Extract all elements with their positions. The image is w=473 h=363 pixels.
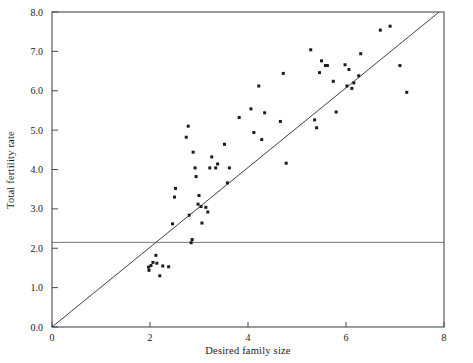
data-point: [208, 166, 211, 169]
data-point: [167, 265, 170, 268]
data-point: [379, 29, 382, 32]
data-point: [263, 111, 266, 114]
data-point: [154, 254, 157, 257]
data-point: [320, 59, 323, 62]
data-point: [309, 48, 312, 51]
reference-lines: [52, 12, 444, 327]
y-tick-label: 4.0: [31, 164, 44, 175]
data-point: [345, 85, 348, 88]
data-point: [185, 136, 188, 139]
data-point: [357, 74, 360, 77]
data-point: [200, 222, 203, 225]
y-tick-label: 0.0: [31, 322, 44, 333]
data-point: [359, 52, 362, 55]
data-point: [190, 241, 193, 244]
data-point: [198, 194, 201, 197]
data-point: [252, 131, 255, 134]
data-point: [171, 222, 174, 225]
y-axis-title: Total fertility rate: [5, 131, 16, 209]
data-point: [161, 264, 164, 267]
data-point: [249, 107, 252, 110]
data-point: [206, 211, 209, 214]
y-tick-label: 3.0: [31, 203, 44, 214]
data-point: [332, 80, 335, 83]
data-point: [223, 143, 226, 146]
data-point: [216, 162, 219, 165]
data-point: [318, 71, 321, 74]
data-point: [149, 264, 152, 267]
data-point: [257, 85, 260, 88]
data-point: [389, 25, 392, 28]
data-point: [344, 63, 347, 66]
data-point: [350, 87, 353, 90]
data-point: [335, 111, 338, 114]
data-point: [174, 187, 177, 190]
data-point: [151, 261, 154, 264]
data-point: [173, 196, 176, 199]
x-tick-label: 0: [50, 332, 55, 343]
plot-frame: [52, 12, 444, 327]
data-point: [195, 175, 198, 178]
y-tick-label: 1.0: [31, 282, 44, 293]
data-point: [326, 64, 329, 67]
data-point: [199, 205, 202, 208]
data-point: [398, 64, 401, 67]
y-tick-label: 2.0: [31, 243, 44, 254]
x-tick-label: 8: [442, 332, 447, 343]
data-point: [214, 166, 217, 169]
data-point: [285, 162, 288, 165]
x-tick-label: 4: [246, 332, 251, 343]
y-tick-label: 5.0: [31, 125, 44, 136]
data-point: [260, 138, 263, 141]
data-points-layer: [147, 25, 408, 278]
y-tick-label: 7.0: [31, 46, 44, 57]
data-point: [148, 269, 151, 272]
data-point: [405, 91, 408, 94]
data-point: [315, 126, 318, 129]
data-point: [197, 203, 200, 206]
x-axis-title: Desired family size: [205, 345, 291, 356]
data-point: [191, 238, 194, 241]
x-axis-ticks: 02468: [50, 322, 447, 343]
equality-line: [52, 12, 439, 327]
fertility-scatter-chart: 0.01.02.03.04.05.06.07.08.0 02468 Desire…: [0, 0, 473, 363]
x-tick-label: 2: [148, 332, 153, 343]
data-point: [188, 214, 191, 217]
data-point: [194, 166, 197, 169]
data-point: [228, 166, 231, 169]
y-axis-ticks: 0.01.02.03.04.05.06.07.08.0: [31, 7, 59, 333]
data-point: [352, 81, 355, 84]
data-point: [187, 125, 190, 128]
data-point: [155, 262, 158, 265]
data-point: [226, 181, 229, 184]
data-point: [204, 206, 207, 209]
data-point: [192, 151, 195, 154]
data-point: [158, 274, 161, 277]
scatter-plot-figure: 0.01.02.03.04.05.06.07.08.0 02468 Desire…: [0, 0, 473, 363]
y-tick-label: 8.0: [31, 7, 44, 18]
data-point: [347, 68, 350, 71]
data-point: [210, 155, 213, 158]
data-point: [313, 118, 316, 121]
y-tick-label: 6.0: [31, 85, 44, 96]
x-tick-label: 6: [344, 332, 349, 343]
data-point: [282, 72, 285, 75]
data-point: [279, 120, 282, 123]
data-point: [238, 116, 241, 119]
